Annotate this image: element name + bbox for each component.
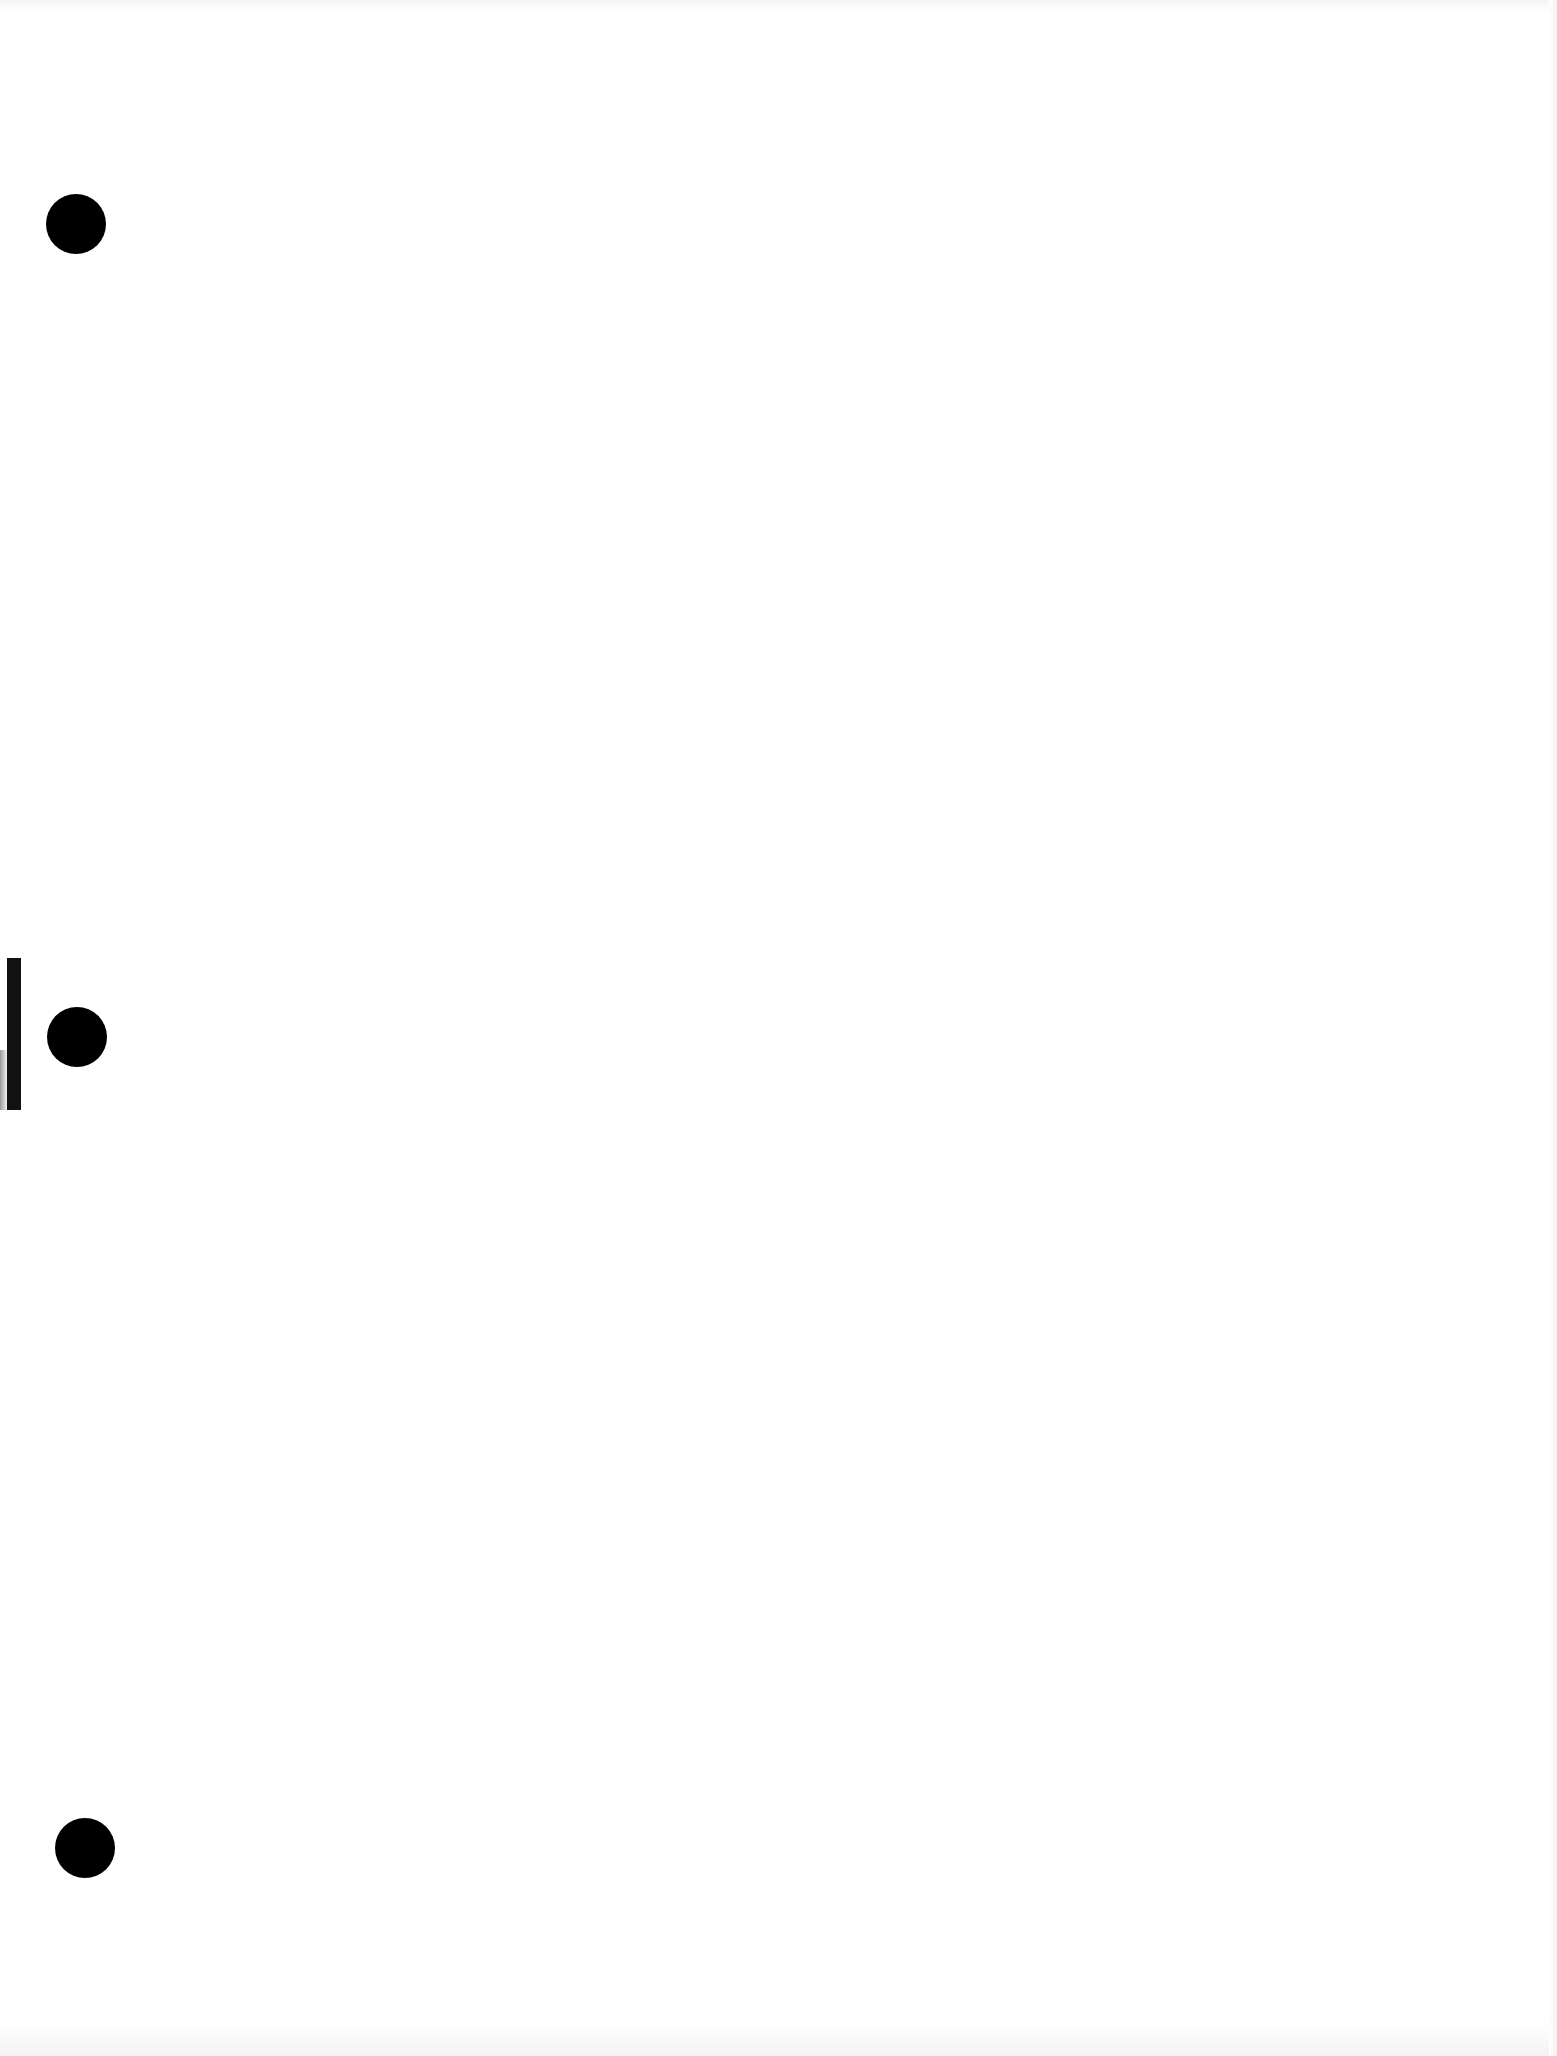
scanned-page — [0, 0, 1557, 2056]
punch-hole-middle — [47, 1007, 107, 1067]
punch-hole-bottom — [55, 1818, 115, 1878]
edge-mark-bar — [7, 958, 21, 1110]
page-edge-shadow — [1549, 0, 1557, 2056]
punch-hole-top — [46, 194, 106, 254]
